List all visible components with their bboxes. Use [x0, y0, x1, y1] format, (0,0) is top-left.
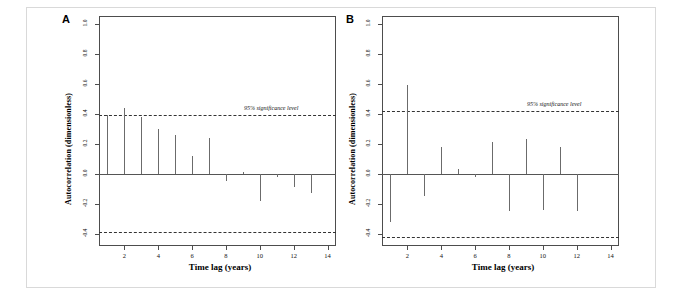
y-tick-mark [378, 204, 382, 205]
x-tick-mark [611, 246, 612, 250]
x-tick-mark [124, 246, 125, 250]
x-tick-label: 10 [250, 252, 270, 259]
y-tick-label: 0.2 [82, 135, 88, 151]
x-tick-mark [475, 246, 476, 250]
y-tick-label: 0.8 [82, 45, 88, 61]
y-tick-mark [95, 54, 99, 55]
x-tick-label: 12 [284, 252, 304, 259]
panel-b-x-axis-label: Time lag (years) [383, 262, 623, 272]
acf-bar [311, 174, 312, 194]
x-tick-mark [192, 246, 193, 250]
significance-level-line [382, 111, 619, 112]
y-tick-label: 0.2 [365, 135, 371, 151]
x-tick-mark [328, 246, 329, 250]
x-tick-label: 6 [182, 252, 202, 259]
significance-level-annotation: 95% significance level [527, 101, 581, 107]
y-tick-mark [378, 114, 382, 115]
significance-level-line [99, 115, 336, 116]
zero-line [382, 174, 619, 175]
panel-a: A Autocorrelation (dimensionless) Time l… [0, 0, 341, 295]
y-tick-mark [378, 84, 382, 85]
x-tick-label: 14 [601, 252, 621, 259]
significance-level-line [382, 237, 619, 238]
panel-b-plot-area [382, 16, 619, 246]
acf-bar [441, 147, 442, 174]
acf-bar [226, 174, 227, 182]
significance-level-annotation: 95% significance level [244, 105, 298, 111]
acf-bar [260, 174, 261, 201]
acf-bar [192, 156, 193, 174]
acf-bar [577, 174, 578, 212]
acf-bar [209, 138, 210, 174]
acf-bar [294, 174, 295, 188]
y-tick-mark [95, 84, 99, 85]
acf-bar [124, 108, 125, 174]
x-tick-mark [294, 246, 295, 250]
y-tick-mark [95, 144, 99, 145]
y-tick-mark [95, 234, 99, 235]
panel-a-x-axis-label: Time lag (years) [100, 262, 340, 272]
x-tick-mark [158, 246, 159, 250]
y-tick-label: -0.4 [82, 225, 88, 241]
acf-bar [560, 147, 561, 174]
panel-a-label: A [62, 13, 70, 25]
y-tick-label: 0.0 [365, 165, 371, 181]
acf-bar [243, 172, 244, 174]
panel-b: B Autocorrelation (dimensionless) Time l… [341, 0, 682, 295]
acf-bar [390, 174, 391, 222]
x-tick-mark [509, 246, 510, 250]
x-tick-label: 4 [431, 252, 451, 259]
y-tick-mark [95, 24, 99, 25]
y-tick-label: 0.0 [82, 165, 88, 181]
panel-b-y-axis-label: Autocorrelation (dimensionless) [348, 93, 357, 205]
x-tick-mark [407, 246, 408, 250]
x-tick-label: 12 [567, 252, 587, 259]
x-tick-label: 8 [499, 252, 519, 259]
x-tick-label: 10 [533, 252, 553, 259]
x-tick-label: 4 [148, 252, 168, 259]
x-tick-label: 8 [216, 252, 236, 259]
y-tick-mark [378, 24, 382, 25]
y-tick-label: 0.6 [82, 75, 88, 91]
y-tick-label: 0.4 [82, 105, 88, 121]
y-tick-label: 0.6 [365, 75, 371, 91]
acf-bar [492, 142, 493, 174]
acf-bar [509, 174, 510, 212]
acf-bar [175, 135, 176, 174]
x-tick-label: 6 [465, 252, 485, 259]
panel-b-label: B [346, 13, 354, 25]
y-tick-mark [378, 144, 382, 145]
acf-bar [458, 169, 459, 174]
x-tick-mark [543, 246, 544, 250]
acf-bar [158, 129, 159, 174]
y-tick-mark [378, 234, 382, 235]
y-tick-mark [378, 54, 382, 55]
y-tick-label: -0.2 [82, 195, 88, 211]
panel-a-y-axis-label: Autocorrelation (dimensionless) [64, 93, 73, 205]
y-tick-label: 1.0 [365, 15, 371, 31]
y-tick-mark [95, 204, 99, 205]
zero-line [99, 174, 336, 175]
acf-bar [107, 115, 108, 174]
y-tick-label: -0.2 [365, 195, 371, 211]
acf-bar [407, 85, 408, 174]
x-tick-mark [577, 246, 578, 250]
y-tick-label: 1.0 [82, 15, 88, 31]
panel-a-plot-area [99, 16, 336, 246]
y-tick-label: 0.8 [365, 45, 371, 61]
x-tick-mark [441, 246, 442, 250]
significance-level-line [99, 232, 336, 233]
acf-bar [543, 174, 544, 210]
x-tick-label: 2 [114, 252, 134, 259]
acf-bar [475, 174, 476, 177]
y-tick-label: -0.4 [365, 225, 371, 241]
y-tick-label: 0.4 [365, 105, 371, 121]
x-tick-label: 14 [318, 252, 338, 259]
acf-bar [277, 174, 278, 177]
acf-bar [424, 174, 425, 197]
x-tick-label: 2 [397, 252, 417, 259]
acf-bar [526, 139, 527, 174]
acf-bar [141, 117, 142, 174]
x-tick-mark [260, 246, 261, 250]
x-tick-mark [226, 246, 227, 250]
